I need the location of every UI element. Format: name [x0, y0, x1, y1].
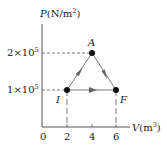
- y-axis-title: P(N/m2): [39, 7, 80, 19]
- point-A: [89, 50, 95, 56]
- point-I: [64, 87, 70, 93]
- x-tick-label-4: 4: [89, 131, 95, 142]
- label-F: F: [119, 94, 128, 105]
- x-axis-title: V(m3): [132, 121, 161, 133]
- label-I: I: [55, 94, 61, 105]
- x-tick-label-2: 2: [64, 131, 70, 142]
- x-tick-label-0: 0: [40, 131, 46, 142]
- arrow-I-F-icon: [89, 87, 97, 93]
- pv-diagram: A I F P(N/m2) V(m3) 2×105 1×105 0 2 4 6: [0, 0, 167, 147]
- y-tick-label-2e5: 2×105: [7, 46, 39, 58]
- y-tick-label-1e5: 1×105: [7, 83, 39, 95]
- x-tick-label-6: 6: [113, 131, 119, 142]
- arrow-I-A-icon: [76, 68, 83, 76]
- point-F: [113, 87, 119, 93]
- label-A: A: [87, 37, 95, 48]
